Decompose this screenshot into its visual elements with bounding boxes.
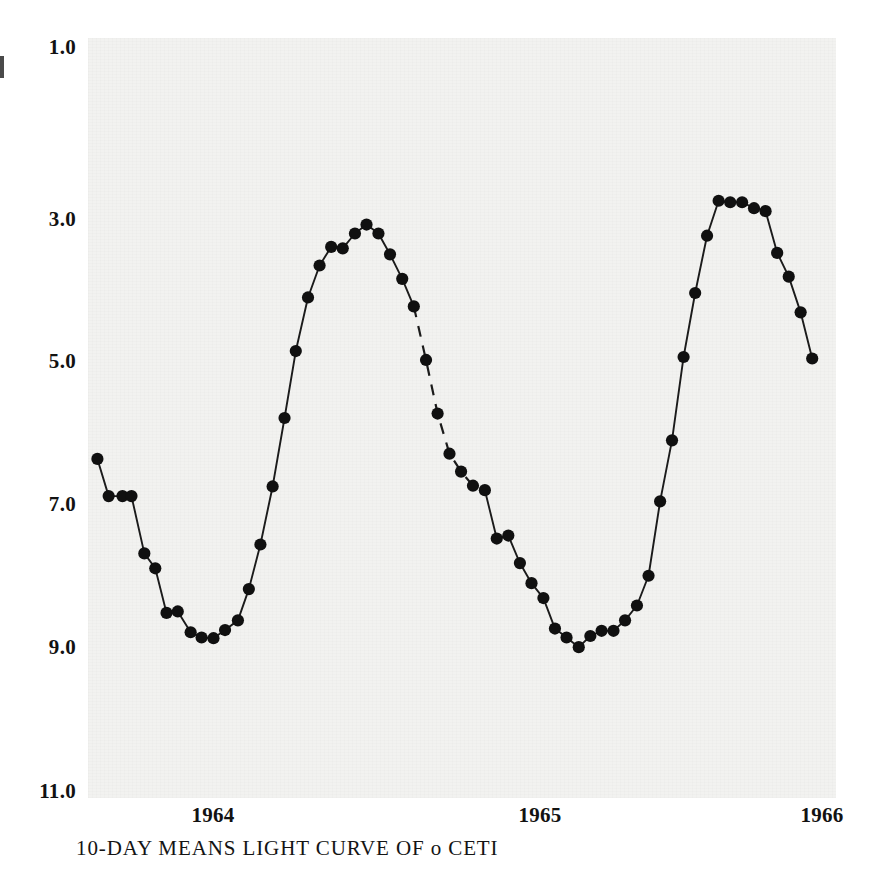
data-point [138,547,150,559]
data-point [103,490,115,502]
data-point [290,345,302,357]
data-point [91,453,103,465]
y-axis-tick-label: 1.0 [14,35,76,60]
data-point [372,227,384,239]
data-point [595,625,607,637]
data-point [654,495,666,507]
data-point [360,218,372,230]
data-point [302,291,314,303]
data-point [514,557,526,569]
data-point [619,614,631,626]
light-curve-plot [0,0,879,896]
data-point [584,630,596,642]
data-point [160,607,172,619]
data-point [771,247,783,259]
y-axis-tick-label: 5.0 [14,349,76,374]
series-line-cycle1 [97,225,413,639]
data-point [677,351,689,363]
data-point [748,202,760,214]
data-point [125,490,137,502]
data-point [783,271,795,283]
data-point [689,287,701,299]
data-point [313,259,325,271]
data-point [549,622,561,634]
data-point [185,626,197,638]
data-point [325,241,337,253]
data-point [207,632,219,644]
data-point [491,532,503,544]
data-point [537,592,549,604]
data-point [525,577,537,589]
data-point [642,570,654,582]
data-point [666,434,678,446]
x-axis-tick-label: 1965 [480,803,600,828]
data-point [467,480,479,492]
data-point-markers [91,195,818,654]
figure-caption: 10-DAY MEANS LIGHT CURVE OF o CETI [76,836,498,861]
data-point [713,195,725,207]
y-axis-tick-label: 3.0 [14,207,76,232]
light-curve-figure: 1.0 3.0 5.0 7.0 9.0 11.0 1964 1965 1966 … [0,0,879,896]
data-point [408,300,420,312]
data-point [759,205,771,217]
data-point [806,352,818,364]
x-axis-tick-label: 1964 [153,803,273,828]
data-point [172,605,184,617]
data-point [631,599,643,611]
data-point [254,538,266,550]
data-point [502,529,514,541]
data-point [560,631,572,643]
data-point [149,562,161,574]
data-point [243,583,255,595]
data-point [267,480,279,492]
data-point [349,227,361,239]
data-point [455,465,467,477]
y-axis-tick-label: 7.0 [14,492,76,517]
data-point [573,641,585,653]
data-point [701,230,713,242]
data-point [724,196,736,208]
y-axis-tick-label: 9.0 [14,635,76,660]
data-point [420,354,432,366]
data-point [278,412,290,424]
data-point [396,273,408,285]
x-axis-tick-label: 1966 [762,803,879,828]
series-line-dashed-gap [414,306,485,490]
data-point [219,624,231,636]
data-point [479,484,491,496]
data-point [736,196,748,208]
data-point [337,242,349,254]
data-point [232,614,244,626]
data-point [443,448,455,460]
y-axis-tick-label: 11.0 [14,779,76,804]
data-point [432,407,444,419]
data-point [795,306,807,318]
data-point [384,248,396,260]
data-point [195,631,207,643]
data-point [607,625,619,637]
